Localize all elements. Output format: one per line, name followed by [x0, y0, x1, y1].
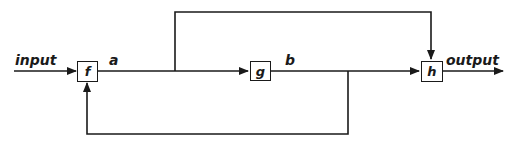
- block-diagram: f g h input a b output: [0, 0, 520, 148]
- input-label: input: [15, 53, 56, 67]
- a-label: a: [109, 53, 118, 67]
- feedback-arrow: [87, 71, 348, 134]
- bypass-arrow: [175, 12, 431, 71]
- block-f: f: [77, 61, 98, 82]
- block-h: h: [421, 61, 443, 82]
- output-label: output: [446, 53, 499, 67]
- b-label: b: [285, 53, 295, 67]
- block-g: g: [250, 61, 271, 81]
